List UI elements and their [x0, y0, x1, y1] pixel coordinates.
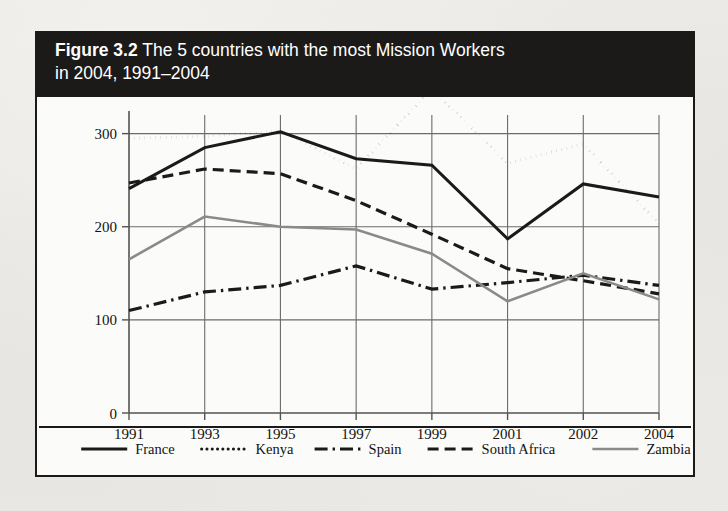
y-tick-label-100: 100: [95, 312, 118, 328]
x-tick-label-1991: 1991: [114, 426, 144, 442]
chart-y-tick-labels: 0100200300: [95, 126, 118, 421]
figure-3-2: Figure 3.2 The 5 countries with the most…: [35, 31, 695, 477]
chart-x-tick-labels: 19911993199519971999200120022004: [114, 426, 675, 442]
x-tick-label-1999: 1999: [417, 426, 447, 442]
chart-series-group: [129, 97, 659, 311]
x-tick-label-1995: 1995: [265, 426, 295, 442]
y-tick-label-200: 200: [95, 219, 118, 235]
x-tick-label-2004: 2004: [644, 426, 675, 442]
series-line-kenya: [129, 97, 659, 224]
y-tick-label-0: 0: [110, 406, 118, 422]
legend-label-spain: Spain: [369, 441, 403, 457]
figure-title-banner: Figure 3.2 The 5 countries with the most…: [35, 31, 695, 97]
legend-label-south-africa: South Africa: [482, 441, 556, 457]
figure-caption-line2: in 2004, 1991–2004: [55, 63, 210, 83]
chart-y-ticks: [122, 134, 129, 413]
figure-title: Figure 3.2 The 5 countries with the most…: [55, 39, 679, 85]
line-chart: 19911993199519971999200120022004 0100200…: [37, 97, 693, 473]
legend-label-kenya: Kenya: [256, 441, 294, 457]
series-line-france: [129, 132, 659, 239]
figure-number: Figure 3.2: [55, 40, 138, 60]
y-tick-label-300: 300: [95, 126, 118, 142]
chart-axes: [129, 111, 659, 413]
x-tick-label-2001: 2001: [493, 426, 523, 442]
chart-gridlines: [129, 115, 659, 413]
x-tick-label-1997: 1997: [341, 426, 372, 442]
x-tick-label-2002: 2002: [568, 426, 598, 442]
legend-label-france: France: [135, 441, 174, 457]
legend-label-zambia: Zambia: [646, 441, 691, 457]
series-line-zambia: [129, 217, 659, 302]
series-line-spain: [129, 266, 659, 311]
chart-panel: 19911993199519971999200120022004 0100200…: [35, 97, 695, 477]
x-tick-label-1993: 1993: [190, 426, 220, 442]
chart-x-ticks: [129, 413, 659, 420]
figure-caption-line1: The 5 countries with the most Mission Wo…: [138, 40, 505, 60]
